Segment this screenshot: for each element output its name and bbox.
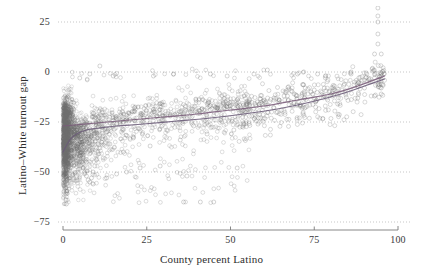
data-point: [351, 110, 355, 114]
data-point: [268, 100, 272, 104]
data-point: [215, 136, 219, 140]
data-point: [287, 124, 291, 128]
data-point: [185, 174, 189, 178]
data-point: [114, 154, 118, 158]
data-point: [151, 97, 155, 101]
data-point: [93, 164, 97, 168]
data-point: [267, 89, 271, 93]
data-point: [119, 151, 123, 155]
data-point: [173, 144, 177, 148]
data-point: [219, 160, 223, 164]
data-point: [359, 113, 363, 117]
data-point: [295, 122, 299, 126]
data-point: [109, 158, 113, 162]
data-point: [189, 91, 193, 95]
data-point: [235, 166, 239, 170]
data-point: [204, 68, 208, 72]
data-point: [208, 72, 212, 76]
data-point: [183, 134, 187, 138]
data-point: [348, 71, 352, 75]
data-point: [190, 174, 194, 178]
data-point: [113, 140, 117, 144]
data-point: [151, 69, 155, 73]
data-point: [75, 99, 78, 102]
data-point: [204, 166, 208, 170]
data-point: [98, 64, 102, 68]
data-point: [236, 176, 240, 180]
x-tick-label-2: 50: [211, 234, 251, 245]
data-point: [115, 172, 119, 176]
x-axis-line-group: [63, 226, 398, 230]
data-point: [154, 193, 158, 197]
data-point: [181, 157, 185, 161]
data-point: [292, 76, 296, 80]
data-point: [184, 129, 188, 133]
data-point: [128, 153, 132, 157]
data-point: [336, 96, 340, 100]
data-point: [76, 102, 79, 105]
data-point: [237, 139, 241, 143]
data-point: [216, 87, 220, 91]
data-point: [373, 93, 377, 97]
data-point: [170, 191, 174, 195]
data-point: [332, 99, 336, 103]
data-point: [269, 127, 273, 131]
data-point: [137, 201, 141, 205]
data-point: [262, 124, 266, 128]
data-point: [328, 123, 332, 127]
data-point: [168, 163, 172, 167]
data-point: [151, 136, 155, 140]
x-axis-title: County percent Latino: [0, 253, 423, 265]
x-tick-label-4: 100: [378, 234, 418, 245]
data-point: [316, 83, 320, 87]
data-point: [188, 164, 192, 168]
data-point: [269, 72, 273, 76]
data-point: [203, 91, 207, 95]
data-point: [109, 137, 113, 141]
x-tick-label-3: 75: [294, 234, 334, 245]
data-point: [153, 168, 157, 172]
data-point: [148, 144, 152, 148]
data-point: [356, 96, 360, 100]
data-point: [193, 186, 197, 190]
data-point: [241, 164, 245, 168]
data-point: [233, 76, 237, 80]
data-point: [201, 191, 205, 195]
data-point: [209, 136, 213, 140]
data-point: [213, 166, 217, 170]
data-point: [67, 84, 70, 87]
data-point: [190, 67, 194, 71]
data-point: [329, 116, 333, 120]
data-point: [355, 100, 359, 104]
data-point: [164, 192, 168, 196]
data-point: [232, 149, 236, 153]
data-point: [82, 190, 86, 194]
data-point: [186, 169, 190, 173]
data-point: [218, 96, 222, 100]
data-point: [125, 170, 129, 174]
data-point: [220, 150, 224, 154]
data-point: [131, 145, 135, 149]
data-point: [373, 60, 377, 64]
data-point: [194, 168, 198, 172]
data-point: [125, 150, 129, 154]
data-point: [253, 96, 257, 100]
data-point: [70, 189, 74, 193]
data-point: [319, 89, 323, 93]
data-point: [190, 129, 194, 133]
data-point: [231, 123, 235, 127]
data-point: [316, 72, 320, 76]
data-point: [71, 75, 75, 79]
data-point: [136, 190, 140, 194]
data-point: [261, 82, 265, 86]
data-point: [268, 133, 272, 137]
data-point: [342, 118, 346, 122]
data-point: [248, 133, 252, 137]
data-point: [363, 100, 367, 104]
data-point: [80, 72, 84, 76]
data-point: [276, 85, 280, 89]
data-point: [376, 42, 380, 46]
data-point: [198, 200, 202, 204]
data-point: [180, 88, 184, 92]
data-point: [129, 169, 133, 173]
